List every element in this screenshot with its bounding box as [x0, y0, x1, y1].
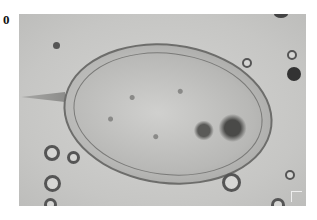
- dark-particle: [53, 42, 60, 49]
- egg-spine: [21, 92, 65, 102]
- bubble: [44, 175, 61, 192]
- bubble: [271, 198, 285, 206]
- egg-contents: [66, 42, 269, 186]
- micrograph-image: [19, 14, 306, 206]
- bubble: [222, 173, 241, 192]
- dark-particle: [287, 67, 301, 81]
- bubble: [287, 50, 297, 60]
- bubble: [44, 145, 60, 161]
- bubble: [44, 198, 57, 206]
- dark-particle: [274, 14, 288, 18]
- bubble: [285, 170, 295, 180]
- bubble: [67, 151, 80, 164]
- panel-label: 0: [3, 13, 10, 26]
- parasite-egg: [55, 32, 280, 197]
- corner-mark: [291, 191, 302, 202]
- bubble: [242, 58, 252, 68]
